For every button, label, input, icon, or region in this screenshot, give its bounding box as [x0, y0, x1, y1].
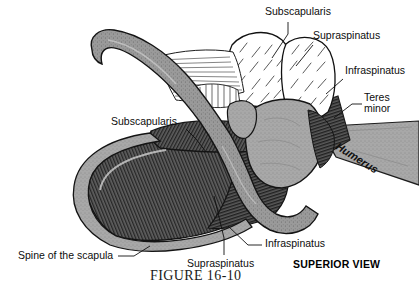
label-supraspinatus-top: Supraspinatus — [313, 30, 380, 42]
shoulder-anatomy-illustration — [0, 0, 419, 288]
label-infraspinatus-bottom: Infraspinatus — [265, 238, 325, 250]
label-subscapularis-top: Subscapularis — [265, 6, 331, 18]
figure-caption: FIGURE 16-10 — [150, 268, 242, 284]
figure-container: Subscapularis Supraspinatus Infraspinatu… — [0, 0, 419, 288]
label-subscapularis-left: Subscapularis — [111, 116, 177, 128]
label-infraspinatus-right: Infraspinatus — [345, 65, 405, 77]
label-spine-of-scapula: Spine of the scapula — [18, 250, 113, 262]
label-teres-minor-line2: minor — [364, 103, 390, 114]
superior-view-note: SUPERIOR VIEW — [293, 258, 380, 270]
